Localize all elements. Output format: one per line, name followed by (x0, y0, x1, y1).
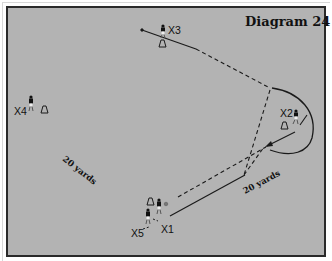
player-label-x1: X1 (161, 223, 174, 235)
player-icon (29, 95, 33, 111)
diagram-title: Diagram 24 (245, 14, 330, 29)
player-icon (161, 24, 165, 38)
player-label-x2: X2 (280, 107, 293, 119)
x2-run-arrowhead (265, 141, 273, 147)
player-x5: X5 (131, 208, 150, 239)
cone-icon (159, 40, 166, 47)
player-x4: X4 (14, 95, 33, 117)
x3-run-start-dot (141, 29, 143, 31)
pass-return-line (244, 147, 264, 175)
cone-icon (147, 198, 154, 205)
x1-trail (153, 219, 158, 221)
player-x2: X2 (280, 107, 298, 124)
distance-label-left: 20 yards (61, 154, 99, 187)
x5-trail (143, 227, 149, 229)
player-icon (157, 198, 161, 214)
player-label-x5: X5 (131, 227, 144, 239)
x3-pass-line (196, 49, 270, 88)
cones (41, 40, 288, 205)
player-icon (293, 109, 298, 124)
player-label-x4: X4 (14, 105, 27, 117)
player-icon (146, 208, 150, 224)
player-label-x3: X3 (168, 24, 181, 36)
pass-to-midpoint-line (244, 90, 270, 175)
player-x3: X3 (161, 24, 181, 38)
x2-curved-run (270, 88, 313, 154)
x2-trail (300, 115, 307, 125)
cone-icon (281, 122, 288, 129)
drill-diagram: Diagram 24 (0, 0, 332, 261)
ball-icon (164, 202, 168, 206)
distance-label-bottom-right: 20 yards (241, 168, 282, 196)
cone-icon (41, 106, 48, 113)
